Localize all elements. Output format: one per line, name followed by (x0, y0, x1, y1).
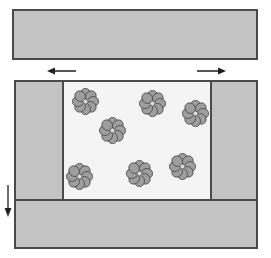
bottom-gray-band (16, 201, 256, 247)
rosette-particle-icon (182, 100, 209, 127)
rosette-particle-icon (139, 90, 166, 117)
lower-layer-block (14, 80, 258, 249)
right-gray-panel (212, 82, 256, 199)
rosette-particle-icon (66, 163, 93, 190)
rosette-particle-icon (169, 153, 196, 180)
top-layer-rect (12, 9, 258, 60)
right-arrow-icon (195, 65, 227, 77)
rosette-particle-icon (99, 117, 126, 144)
left-gray-panel (16, 82, 62, 199)
left-arrow-icon (46, 65, 78, 77)
fracture-row (16, 82, 256, 199)
down-arrow-icon (2, 183, 14, 218)
diagram-canvas (0, 0, 271, 258)
rosette-particle-icon (72, 88, 99, 115)
rosette-particle-icon (126, 160, 153, 187)
exposed-face-panel (62, 82, 212, 199)
